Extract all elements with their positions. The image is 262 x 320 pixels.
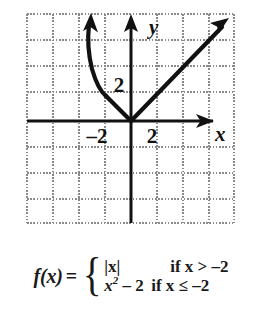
formula-panel: f(x) = { |x| if x > –2 x2 – 2 if x ≤ –2 xyxy=(0,232,262,320)
x-tick-label-two: 2 xyxy=(147,124,158,148)
function-name: f(x) xyxy=(33,265,62,288)
x-tick-label-negative-two: –2 xyxy=(86,124,108,148)
case-2-expression: x2 – 2 xyxy=(104,276,148,295)
piecewise-function-figure: –2 2 2 y x f(x) = { |x| if x > –2 x2 – 2… xyxy=(0,0,262,320)
open-brace: { xyxy=(83,257,102,293)
x-axis-label: x xyxy=(214,122,226,146)
cases-block: |x| if x > –2 x2 – 2 if x ≤ –2 xyxy=(104,257,228,295)
case-2-suffix: – 2 xyxy=(118,276,144,295)
case-2-base: x xyxy=(104,276,113,295)
case-1-expression: |x| xyxy=(104,257,148,276)
graph-panel: –2 2 2 y x xyxy=(0,0,262,232)
case-row-1: |x| if x > –2 xyxy=(104,257,228,276)
piecewise-formula: f(x) = { |x| if x > –2 x2 – 2 if x ≤ –2 xyxy=(0,232,262,320)
case-row-2: x2 – 2 if x ≤ –2 xyxy=(104,276,228,295)
y-tick-label-two: 2 xyxy=(114,73,125,97)
case-1-condition: if x > –2 xyxy=(148,257,228,276)
coordinate-plane-svg: –2 2 2 y x xyxy=(0,0,262,232)
equals-sign: = xyxy=(66,265,77,288)
case-2-condition: if x ≤ –2 xyxy=(148,276,209,295)
